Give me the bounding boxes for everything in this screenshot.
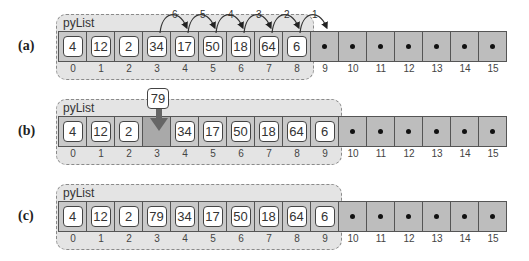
empty-cell [423,202,451,231]
index-label: 3 [143,233,171,244]
value-box: 4 [63,206,83,227]
index-label: 8 [283,233,311,244]
array-grid: 4 12 2 79 34 17 50 18 64 6 [58,201,507,232]
null-dot-icon [462,214,467,219]
shift-order-label: 5 [200,9,206,20]
row-label: (c) [18,208,34,224]
row-b: (b) pyList 4 12 2 34 17 50 18 64 6 0 1 2… [0,85,529,170]
index-label: 2 [115,233,143,244]
index-label: 5 [199,233,227,244]
null-dot-icon [406,214,411,219]
index-label: 12 [395,233,423,244]
value-box: 18 [259,206,279,227]
array-cell: 64 [283,202,311,231]
index-label: 15 [479,233,507,244]
index-label: 0 [59,233,87,244]
down-arrow-icon [150,118,168,131]
index-label: 6 [227,233,255,244]
index-labels: 0 1 2 3 4 5 6 7 8 9 10 11 12 13 14 15 [59,233,507,244]
index-label: 7 [255,233,283,244]
empty-cell [367,202,395,231]
index-label: 1 [87,233,115,244]
array-cell: 6 [311,202,339,231]
array-cell: 79 [143,202,171,231]
value-box: 79 [147,206,167,227]
array-cell: 18 [255,202,283,231]
null-dot-icon [350,214,355,219]
row-a: (a) pyList 4 12 2 34 17 50 18 64 6 0 1 2… [0,0,529,85]
index-label: 11 [367,233,395,244]
index-label: 9 [311,233,339,244]
array-cell: 2 [115,202,143,231]
shift-order-label: 1 [312,9,318,20]
index-label: 14 [451,233,479,244]
null-dot-icon [490,214,495,219]
insert-arrow [0,85,529,170]
empty-cell [339,202,367,231]
array-cell: 50 [227,202,255,231]
shift-order-label: 2 [284,9,290,20]
value-box: 6 [315,206,335,227]
shift-order-label: 6 [172,9,178,20]
value-box: 2 [119,206,139,227]
list-name: pyList [63,186,94,200]
value-box: 17 [203,206,223,227]
index-label: 13 [423,233,451,244]
empty-cell [395,202,423,231]
index-label: 4 [171,233,199,244]
null-dot-icon [378,214,383,219]
shift-order-label: 4 [228,9,234,20]
array-cell: 17 [199,202,227,231]
index-label: 10 [339,233,367,244]
row-c: (c) pyList 4 12 2 79 34 17 50 18 64 6 0 … [0,170,529,255]
array-cell: 34 [171,202,199,231]
empty-cell [451,202,479,231]
insert-value-box: 79 [147,88,169,109]
value-box: 64 [287,206,307,227]
empty-cell [479,202,506,231]
value-box: 34 [175,206,195,227]
shift-order-label: 3 [256,9,262,20]
null-dot-icon [434,214,439,219]
value-box: 12 [91,206,111,227]
array-cell: 12 [87,202,115,231]
value-box: 50 [231,206,251,227]
array-cell: 4 [59,202,87,231]
shift-arrows: 6 5 4 3 2 1 [0,0,529,85]
